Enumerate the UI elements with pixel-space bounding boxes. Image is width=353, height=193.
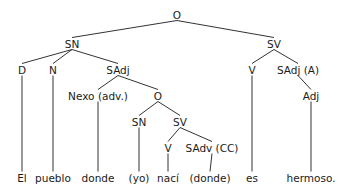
syntax-tree: OSNSVDNSAdjVSAdj (A)Nexo (adv.)OAdjSNSVV… <box>0 0 353 193</box>
leaf-word-w-yo: (yo) <box>129 172 150 184</box>
tree-edge-sadv_cc-w_donde2 <box>210 154 212 172</box>
tree-edge-sv_main-v_main <box>252 50 274 64</box>
tree-node-v-main: V <box>248 64 256 76</box>
tree-node-sv-sub: SV <box>173 116 188 128</box>
tree-edge-sadj-o_sub <box>118 76 158 90</box>
tree-node-sn-main: SN <box>65 38 80 50</box>
tree-edge-sn_main-sadj <box>72 50 118 64</box>
tree-node-sn-sub: SN <box>132 116 147 128</box>
tree-edge-sv_sub-sadv_cc <box>180 128 212 142</box>
tree-edge-o_root-sv_main <box>177 21 274 38</box>
tree-edge-o_sub-sv_sub <box>158 102 180 116</box>
tree-node-sadj: SAdj <box>106 64 129 76</box>
tree-node-adj: Adj <box>303 90 320 102</box>
leaf-word-w-pueblo: pueblo <box>35 172 71 184</box>
tree-node-sadv-cc: SAdv (CC) <box>186 142 239 154</box>
tree-node-o-root: O <box>173 9 181 21</box>
tree-edge-o_root-sn_main <box>72 21 177 38</box>
leaf-word-w-donde2: (donde) <box>189 172 230 184</box>
leaf-word-w-hermoso: hermoso. <box>287 172 336 184</box>
leaf-word-w-es: es <box>246 172 258 184</box>
tree-edge-sv_sub-v_sub <box>168 128 180 142</box>
leaf-word-w-el: El <box>17 172 27 184</box>
tree-node-sv-main: SV <box>267 38 282 50</box>
tree-node-d: D <box>18 64 26 76</box>
tree-node-v-sub: V <box>164 142 172 154</box>
tree-edge-sn_main-d <box>22 50 72 64</box>
tree-edge-sadj-nexo <box>98 76 118 90</box>
tree-labels: OSNSVDNSAdjVSAdj (A)Nexo (adv.)OAdjSNSVV… <box>17 9 335 184</box>
tree-node-nexo: Nexo (adv.) <box>68 90 128 102</box>
tree-edge-o_sub-sn_sub <box>139 102 158 116</box>
leaf-word-w-naci: nací <box>157 172 180 184</box>
leaf-word-w-donde: donde <box>82 172 115 184</box>
tree-edge-sn_main-n <box>53 50 72 64</box>
tree-edge-sadj_a-adj <box>298 76 311 90</box>
tree-node-n: N <box>49 64 57 76</box>
tree-edge-sv_main-sadj_a <box>274 50 298 64</box>
tree-node-sadj-a: SAdj (A) <box>277 64 319 76</box>
tree-node-o-sub: O <box>154 90 162 102</box>
